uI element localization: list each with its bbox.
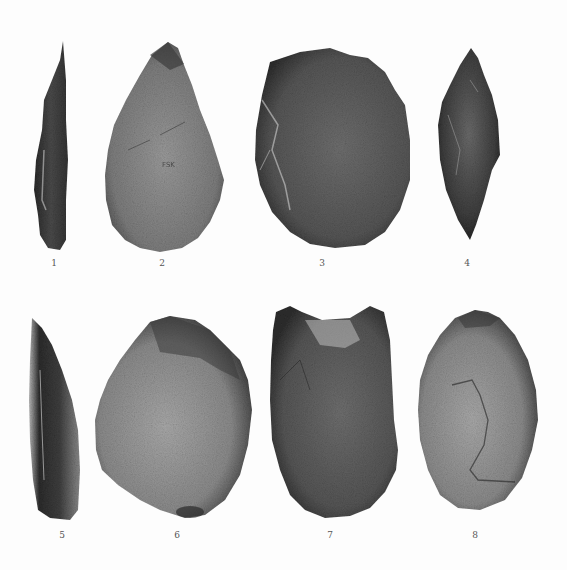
artifact-label-3: 3 <box>319 258 325 268</box>
artifact-1 <box>34 41 68 250</box>
artifact-5 <box>29 318 80 520</box>
artifact-8 <box>418 310 538 510</box>
artifact-2: FSK <box>105 42 224 252</box>
artifact-7 <box>270 306 398 518</box>
artifact-4 <box>438 48 500 240</box>
artifact-plate: FSK <box>0 0 567 570</box>
artifact-3 <box>255 48 410 248</box>
catalog-mark: FSK <box>162 161 175 169</box>
artifact-label-5: 5 <box>59 530 65 540</box>
artifact-label-8: 8 <box>472 530 478 540</box>
artifact-6 <box>95 316 252 518</box>
artifact-label-2: 2 <box>159 258 165 268</box>
artifact-label-4: 4 <box>464 258 470 268</box>
artifact-label-1: 1 <box>51 258 57 268</box>
artifact-label-7: 7 <box>327 530 333 540</box>
artifact-label-6: 6 <box>174 530 180 540</box>
